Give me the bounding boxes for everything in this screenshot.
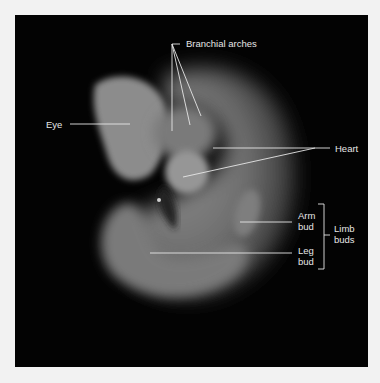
label-heart: Heart: [335, 143, 358, 154]
label-leg-bud-line2: bud: [298, 256, 314, 267]
label-arm-bud-line1: Arm: [298, 210, 315, 221]
embryo-photo: [15, 15, 368, 367]
label-arm-bud: Arm bud: [298, 210, 315, 232]
heart-bulge: [165, 150, 209, 194]
label-limb-buds-line1: Limb: [334, 223, 355, 234]
label-eye: Eye: [46, 119, 62, 130]
label-branchial-arches: Branchial arches: [186, 38, 257, 49]
label-limb-buds-line2: buds: [334, 234, 355, 245]
label-limb-buds: Limb buds: [334, 223, 355, 245]
embryo-image-panel: Branchial arches Eye Heart Arm bud Leg b…: [15, 15, 368, 367]
label-arm-bud-line2: bud: [298, 221, 315, 232]
label-leg-bud-line1: Leg: [298, 245, 314, 256]
label-leg-bud: Leg bud: [298, 245, 314, 267]
